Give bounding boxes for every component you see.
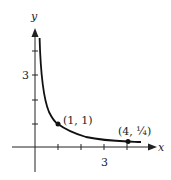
point-4-quarter <box>126 139 131 144</box>
x-axis-arrow-icon <box>148 144 157 151</box>
x-tick-label-3: 3 <box>101 156 108 169</box>
chart-canvas: y x 3 3 (1, 1) (4, ¼) <box>0 0 171 180</box>
x-axis-label: x <box>158 141 165 154</box>
point-label-4-quarter: (4, ¼) <box>118 125 151 138</box>
y-tick-label-3: 3 <box>22 69 29 82</box>
y-axis-label: y <box>30 10 38 23</box>
point-1-1 <box>56 122 61 127</box>
point-label-1-1: (1, 1) <box>63 114 93 127</box>
y-axis-arrow-icon <box>32 28 39 37</box>
